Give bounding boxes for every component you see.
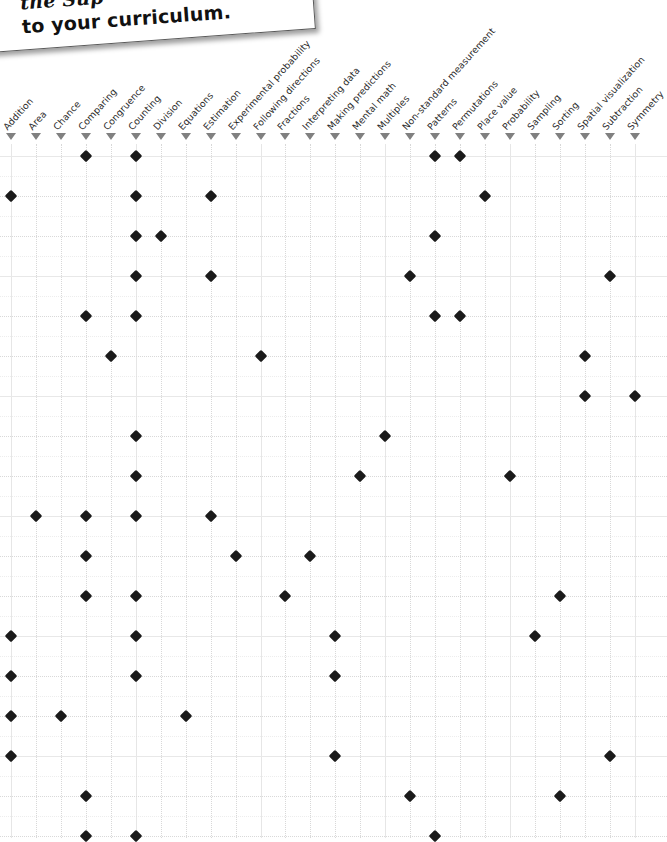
grid-vline [86, 144, 87, 838]
matrix-dot [79, 790, 92, 803]
matrix-dot [104, 350, 117, 363]
triangle-down-icon [156, 133, 166, 140]
matrix-dot [79, 150, 92, 163]
column-markers [0, 132, 667, 144]
triangle-down-icon [480, 133, 490, 140]
grid-vline [410, 144, 411, 838]
grid-hline-minor [0, 656, 667, 657]
grid-hline [0, 836, 667, 837]
triangle-down-icon [580, 133, 590, 140]
grid-hline-minor [0, 536, 667, 537]
grid-vline [161, 144, 162, 838]
grid-hline-minor [0, 456, 667, 457]
matrix-dot [55, 710, 68, 723]
matrix-dot [5, 630, 18, 643]
grid-hline-minor [0, 576, 667, 577]
triangle-down-icon [231, 133, 241, 140]
grid-hline-minor [0, 336, 667, 337]
triangle-down-icon [56, 133, 66, 140]
matrix-dot [429, 230, 442, 243]
matrix-dot [354, 470, 367, 483]
matrix-dot [129, 190, 142, 203]
matrix-dot [79, 590, 92, 603]
triangle-down-icon [256, 133, 266, 140]
matrix-dot [129, 590, 142, 603]
grid-hline [0, 316, 667, 317]
triangle-down-icon [455, 133, 465, 140]
grid-vline [510, 144, 511, 838]
matrix-dot [129, 830, 142, 842]
grid-vline [460, 144, 461, 838]
grid-vline [285, 144, 286, 838]
matrix-dot [129, 310, 142, 323]
grid-vline [136, 144, 137, 838]
triangle-down-icon [131, 133, 141, 140]
grid-vline [485, 144, 486, 838]
matrix-dot [5, 670, 18, 683]
matrix-dot [229, 550, 242, 563]
matrix-dot [79, 830, 92, 842]
grid-hline-minor [0, 496, 667, 497]
matrix-dot [5, 710, 18, 723]
grid-vline [36, 144, 37, 838]
triangle-down-icon [380, 133, 390, 140]
triangle-down-icon [181, 133, 191, 140]
grid-vline [610, 144, 611, 838]
grid-vline [11, 144, 12, 838]
matrix-dot [578, 390, 591, 403]
matrix-dot [479, 190, 492, 203]
triangle-down-icon [605, 133, 615, 140]
grid-hline [0, 236, 667, 237]
grid-hline [0, 276, 667, 277]
matrix-dot [329, 630, 342, 643]
grid-hline [0, 356, 667, 357]
matrix-dot [79, 550, 92, 563]
grid-hline [0, 476, 667, 477]
matrix-dot [204, 270, 217, 283]
triangle-down-icon [31, 133, 41, 140]
matrix-dot [529, 630, 542, 643]
triangle-down-icon [280, 133, 290, 140]
grid-vline [335, 144, 336, 838]
matrix-dot [129, 150, 142, 163]
matrix-dot [603, 750, 616, 763]
matrix-dot [179, 710, 192, 723]
grid-hline-minor [0, 816, 667, 817]
triangle-down-icon [206, 133, 216, 140]
grid-hline-minor [0, 176, 667, 177]
grid-hline [0, 396, 667, 397]
matrix-dot [129, 630, 142, 643]
grid-hline-minor [0, 736, 667, 737]
matrix-dot [454, 150, 467, 163]
triangle-down-icon [405, 133, 415, 140]
triangle-down-icon [355, 133, 365, 140]
triangle-down-icon [505, 133, 515, 140]
grid-vline [585, 144, 586, 838]
grid-hline [0, 596, 667, 597]
skills-matrix-grid [0, 144, 667, 838]
grid-vline [635, 144, 636, 838]
matrix-dot [129, 470, 142, 483]
matrix-dot [429, 310, 442, 323]
triangle-down-icon [430, 133, 440, 140]
grid-hline [0, 436, 667, 437]
matrix-dot [628, 390, 641, 403]
matrix-dot [254, 350, 267, 363]
matrix-dot [129, 270, 142, 283]
matrix-dot [504, 470, 517, 483]
grid-hline [0, 716, 667, 717]
matrix-dot [204, 190, 217, 203]
matrix-dot [404, 790, 417, 803]
matrix-dot [329, 750, 342, 763]
grid-hline-minor [0, 616, 667, 617]
grid-vline [535, 144, 536, 838]
matrix-dot [5, 190, 18, 203]
matrix-dot [404, 270, 417, 283]
grid-vline [385, 144, 386, 838]
grid-hline [0, 196, 667, 197]
grid-hline [0, 156, 667, 157]
matrix-dot [429, 150, 442, 163]
matrix-dot [454, 310, 467, 323]
matrix-dot [279, 590, 292, 603]
triangle-down-icon [555, 133, 565, 140]
